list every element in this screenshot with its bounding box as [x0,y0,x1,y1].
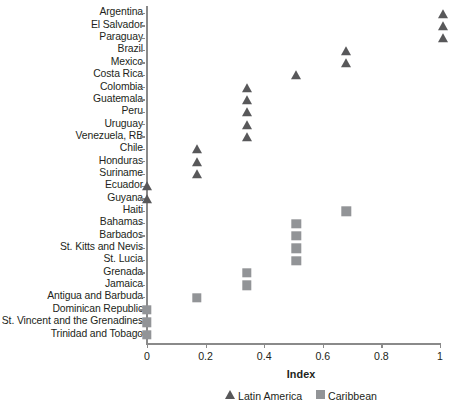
plot-area: ArgentinaEl SalvadorParaguayBrazilMexico… [0,0,459,408]
y-axis-tick [140,248,145,249]
y-axis-tick [140,272,145,273]
y-axis-category-label: Mexico [111,56,143,68]
y-axis-category-label: El Salvador [91,19,143,31]
category-row: Venezuela, RB [0,131,459,143]
data-point-marker [142,305,151,314]
category-row: Peru [0,106,459,118]
category-row: Colombia [0,82,459,94]
y-axis-category-label: Bahamas [100,216,143,228]
y-axis-category-label: St. Kitts and Nevis [60,241,143,253]
data-point-marker [142,330,151,339]
x-axis-tick [264,343,265,348]
data-point-marker [342,206,351,215]
legend-label: Latin America [238,390,302,402]
category-row: Suriname [0,168,459,180]
y-axis-tick [140,13,145,14]
category-row: Costa Rica [0,69,459,81]
data-point-marker [341,58,351,67]
y-axis-category-label: St. Lucia [103,253,143,265]
x-axis-tick-label: 1 [437,350,443,362]
y-axis-tick [140,62,145,63]
data-point-marker [242,120,252,129]
y-axis-tick [140,112,145,113]
category-row: El Salvador [0,20,459,32]
category-row: Guatemala [0,94,459,106]
y-axis-tick [140,211,145,212]
data-point-marker [242,268,251,277]
y-axis-category-label: Uruguay [104,118,143,130]
data-point-marker [292,256,301,265]
y-axis-tick [140,136,145,137]
data-point-marker [192,293,201,302]
category-row: Argentina [0,7,459,19]
data-point-marker [292,219,301,228]
data-point-marker [192,157,202,166]
legend-label: Caribbean [328,390,377,402]
x-axis-tick [147,343,148,348]
y-axis-tick [140,223,145,224]
y-axis-category-label: Grenada [103,266,143,278]
data-point-marker [438,21,448,30]
data-point-marker [142,182,152,191]
y-axis-tick [140,38,145,39]
y-axis-tick [140,50,145,51]
triangle-marker-icon [225,390,235,399]
y-axis-category-label: Trinidad and Tobago [51,328,143,340]
category-row: Guyana [0,193,459,205]
y-axis-tick [140,235,145,236]
y-axis-category-label: Honduras [99,155,143,167]
category-row: St. Lucia [0,254,459,266]
y-axis-tick [140,99,145,100]
y-axis-category-label: Paraguay [99,31,143,43]
y-axis-category-label: Guyana [107,192,143,204]
x-axis-tick-label: 0 [144,350,150,362]
y-axis-tick [140,25,145,26]
y-axis-tick [140,260,145,261]
data-point-marker [292,231,301,240]
data-point-marker [438,34,448,43]
data-point-marker [242,281,251,290]
category-row: Brazil [0,44,459,56]
x-axis-tick [323,343,324,348]
x-axis-title: Index [0,368,459,380]
data-point-marker [341,46,351,55]
data-point-marker [242,95,252,104]
y-axis-category-label: Costa Rica [93,68,143,80]
category-row: Bahamas [0,217,459,229]
y-axis-category-label: Antigua and Barbuda [47,290,143,302]
x-axis-tick [440,343,441,348]
y-axis-tick [140,285,145,286]
x-axis-tick [206,343,207,348]
x-axis-tick-label: 0.6 [315,350,330,362]
y-axis-category-label: Ecuador [105,179,143,191]
legend-item: Caribbean [316,389,377,402]
category-row: Trinidad and Tobago [0,329,459,341]
y-axis-tick [140,174,145,175]
data-point-marker [142,194,152,203]
y-axis-tick [140,124,145,125]
y-axis-category-label: Guatemala [93,93,143,105]
category-row: Honduras [0,156,459,168]
dot-plot-chart: ArgentinaEl SalvadorParaguayBrazilMexico… [0,0,459,408]
x-axis-title-label: Index [287,368,316,380]
category-row: Chile [0,143,459,155]
legend-item: Latin America [225,389,302,402]
y-axis-category-label: Venezuela, RB [76,130,143,142]
y-axis-category-label: St. Vincent and the Grenadines [2,315,143,327]
y-axis-category-label: Barbados [99,229,143,241]
y-axis-category-label: Suriname [99,167,143,179]
x-axis-tick-label: 0.2 [198,350,213,362]
x-axis-tick-label: 0.4 [257,350,272,362]
data-point-marker [192,145,202,154]
category-row: Ecuador [0,180,459,192]
y-axis-category-label: Jamaica [105,278,143,290]
y-axis-tick [140,75,145,76]
y-axis-tick [140,297,145,298]
data-point-marker [242,132,252,141]
data-point-marker [438,9,448,18]
data-point-marker [242,83,252,92]
data-point-marker [292,244,301,253]
y-axis-tick [140,87,145,88]
x-axis-line [146,343,441,345]
data-point-marker [142,318,151,327]
